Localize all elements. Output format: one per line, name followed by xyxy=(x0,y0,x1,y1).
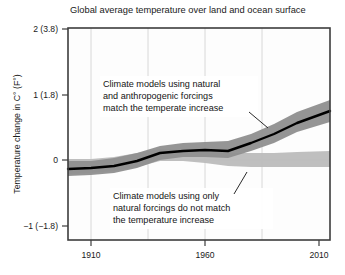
chart-title: Global average temperature over land and… xyxy=(70,5,306,15)
y-tick-label-1: 1 (1.8) xyxy=(33,90,58,100)
climate-temperature-figure: Global average temperature over land and… xyxy=(0,0,345,275)
x-tick-label-1910: 1910 xyxy=(81,250,100,260)
anthropogenic-annotation-line-3: match the temperate increase xyxy=(103,103,223,113)
anthropogenic-annotation-line-1: Climate models using natural xyxy=(103,79,220,89)
y-tick-label-minus1: −1 (−1.8) xyxy=(23,221,58,231)
y-tick-label-0: 0 xyxy=(53,155,58,165)
anthropogenic-annotation-line-2: and anthropogenic forcings xyxy=(103,91,213,101)
natural-annotation-line-1: Climate models using only xyxy=(113,191,220,201)
chart-canvas: Global average temperature over land and… xyxy=(0,0,345,275)
x-tick-label-1960: 1960 xyxy=(195,250,214,260)
y-axis-ticks xyxy=(62,29,68,226)
natural-annotation: Climate models using only natural forcin… xyxy=(113,191,230,225)
natural-annotation-line-3: the temperature increase xyxy=(113,215,214,225)
x-tick-label-2010: 2010 xyxy=(309,250,328,260)
anthropogenic-annotation: Climate models using natural and anthrop… xyxy=(103,79,223,113)
x-axis-ticks xyxy=(91,240,319,246)
y-axis-title: Temperature change in C° (F°) xyxy=(12,74,22,194)
y-tick-label-2: 2 (3.8) xyxy=(33,24,58,34)
natural-annotation-line-2: natural forcings do not match xyxy=(113,203,230,213)
